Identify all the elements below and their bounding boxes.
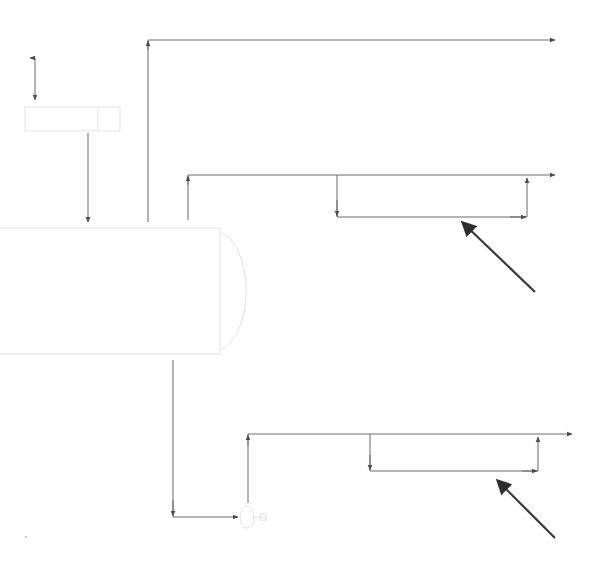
vessel-bottoms-line — [173, 360, 238, 517]
stray-mark — [25, 536, 27, 538]
feed-inlet-line — [30, 58, 35, 100]
side-draw-upper-line — [188, 175, 555, 220]
process-flow-diagram — [0, 0, 602, 573]
upper-pointer-arrow — [463, 223, 535, 292]
pump-icon — [240, 506, 266, 528]
upper-recycle-loop — [337, 175, 527, 217]
lower-pointer-arrow — [498, 481, 555, 538]
pump-discharge-line — [248, 434, 572, 503]
lower-recycle-loop — [370, 434, 538, 471]
overhead-vapor-line — [148, 40, 555, 222]
horizontal-vessel — [0, 228, 246, 354]
heat-exchanger — [25, 107, 120, 131]
